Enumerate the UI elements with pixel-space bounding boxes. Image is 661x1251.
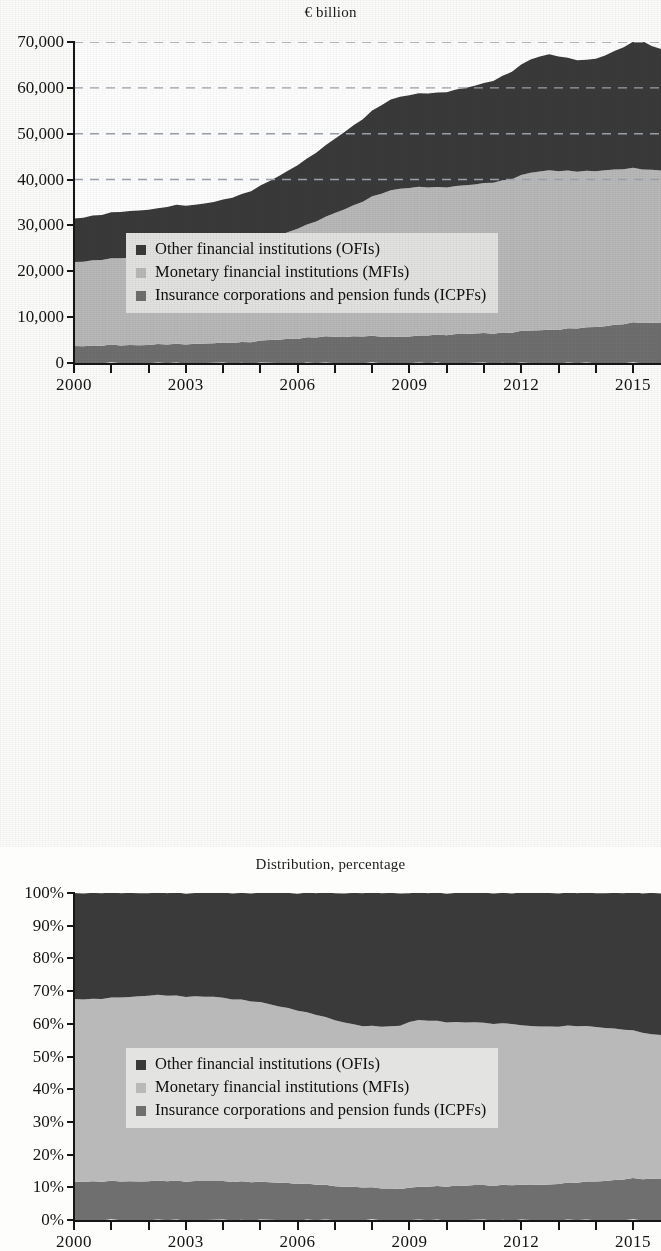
- x-tick-mark: [148, 1221, 150, 1230]
- y-axis-tick-label: 30,000: [0, 216, 64, 233]
- x-axis-tick-label: 2003: [151, 376, 221, 394]
- x-tick-mark: [148, 364, 150, 373]
- y-tick-mark: [67, 1121, 74, 1123]
- y-axis-tick-label: 30%: [0, 1113, 64, 1130]
- y-tick-mark: [67, 316, 74, 318]
- y-axis-tick-label: 0%: [0, 1211, 64, 1228]
- x-axis-tick-label: 2012: [486, 1233, 556, 1251]
- legend-swatch-mfi-icon: [136, 268, 146, 278]
- x-tick-mark: [558, 1221, 560, 1230]
- x-tick-mark: [297, 1221, 299, 1230]
- x-tick-mark: [259, 364, 261, 373]
- x-axis-tick-label: 2006: [263, 376, 333, 394]
- y-axis-tick-label: 10,000: [0, 308, 64, 325]
- x-tick-mark: [446, 364, 448, 373]
- x-axis-line-bottom: [73, 1220, 661, 1222]
- y-axis-tick-label: 20%: [0, 1146, 64, 1163]
- y-tick-mark: [67, 1088, 74, 1090]
- x-tick-mark: [110, 1221, 112, 1230]
- x-tick-mark: [185, 1221, 187, 1230]
- euro-billion-area-svg: [74, 42, 661, 363]
- x-tick-mark: [73, 1221, 75, 1230]
- x-tick-mark: [520, 1221, 522, 1230]
- y-axis-tick-label: 70%: [0, 982, 64, 999]
- x-axis-tick-label: 2015: [598, 376, 661, 394]
- legend-item: Insurance corporations and pension funds…: [136, 284, 486, 307]
- x-tick-mark: [259, 1221, 261, 1230]
- y-axis-tick-label: 80%: [0, 949, 64, 966]
- y-tick-mark: [67, 1023, 74, 1025]
- legend-item: Other financial institutions (OFIs): [136, 238, 486, 261]
- x-tick-mark: [520, 364, 522, 373]
- legend-swatch-mfi-icon: [136, 1083, 146, 1093]
- legend-item-label: Insurance corporations and pension funds…: [155, 1102, 486, 1119]
- x-axis-tick-label: 2000: [39, 1233, 109, 1251]
- x-tick-mark: [334, 1221, 336, 1230]
- x-tick-mark: [632, 364, 634, 373]
- legend-item: Monetary financial institutions (MFIs): [136, 1076, 486, 1099]
- y-axis-tick-label: 40%: [0, 1080, 64, 1097]
- x-tick-mark: [446, 1221, 448, 1230]
- x-axis-tick-label: 2009: [374, 1233, 444, 1251]
- y-tick-mark: [67, 1186, 74, 1188]
- y-tick-mark: [67, 179, 74, 181]
- y-tick-mark: [67, 892, 74, 894]
- x-tick-mark: [371, 364, 373, 373]
- chart-title-distribution-percentage: Distribution, percentage: [0, 856, 661, 873]
- legend-swatch-ofi-icon: [136, 1060, 146, 1070]
- y-axis-tick-label: 60%: [0, 1015, 64, 1032]
- legend-item: Other financial institutions (OFIs): [136, 1053, 486, 1076]
- y-axis-tick-label: 10%: [0, 1178, 64, 1195]
- x-axis-tick-label: 2006: [263, 1233, 333, 1251]
- y-tick-mark: [67, 1154, 74, 1156]
- y-axis-tick-label: 70,000: [0, 33, 64, 50]
- x-axis-tick-label: 2009: [374, 376, 444, 394]
- euro-billion-plot-area: [74, 42, 661, 363]
- y-tick-mark: [67, 41, 74, 43]
- x-tick-mark: [185, 364, 187, 373]
- x-tick-mark: [632, 1221, 634, 1230]
- x-axis-tick-label: 2000: [39, 376, 109, 394]
- y-axis-tick-label: 50,000: [0, 125, 64, 142]
- x-axis-tick-label: 2012: [486, 376, 556, 394]
- y-axis-tick-label: 90%: [0, 917, 64, 934]
- legend-swatch-icpf-icon: [136, 291, 146, 301]
- y-axis-tick-label: 0: [0, 354, 64, 371]
- x-axis-tick-label: 2003: [151, 1233, 221, 1251]
- distribution-percentage-chart-panel: Distribution, percentage 100%90%80%70%60…: [0, 420, 661, 847]
- legend-item-label: Other financial institutions (OFIs): [155, 1056, 380, 1073]
- y-axis-tick-label: 40,000: [0, 171, 64, 188]
- x-tick-mark: [334, 364, 336, 373]
- legend-swatch-icpf-icon: [136, 1106, 146, 1116]
- legend-swatch-ofi-icon: [136, 245, 146, 255]
- x-tick-mark: [483, 364, 485, 373]
- y-tick-mark: [67, 925, 74, 927]
- legend-item-label: Monetary financial institutions (MFIs): [155, 264, 409, 281]
- x-tick-mark: [408, 1221, 410, 1230]
- legend-bottom: Other financial institutions (OFIs)Monet…: [126, 1048, 498, 1128]
- legend-item-label: Monetary financial institutions (MFIs): [155, 1079, 409, 1096]
- y-axis-tick-label: 20,000: [0, 262, 64, 279]
- x-tick-mark: [297, 364, 299, 373]
- y-tick-mark: [67, 87, 74, 89]
- legend-item: Monetary financial institutions (MFIs): [136, 261, 486, 284]
- x-tick-mark: [222, 364, 224, 373]
- y-tick-mark: [67, 1056, 74, 1058]
- x-axis-tick-label: 2015: [598, 1233, 661, 1251]
- legend-item-label: Other financial institutions (OFIs): [155, 241, 380, 258]
- y-axis-tick-label: 50%: [0, 1048, 64, 1065]
- chart-title-euro-billion: € billion: [0, 4, 661, 21]
- euro-billion-chart-panel: € billion 70,00060,00050,00040,00030,000…: [0, 0, 661, 420]
- y-tick-mark: [67, 133, 74, 135]
- x-tick-mark: [595, 364, 597, 373]
- y-tick-mark: [67, 270, 74, 272]
- legend-item: Insurance corporations and pension funds…: [136, 1099, 486, 1122]
- legend-item-label: Insurance corporations and pension funds…: [155, 287, 486, 304]
- y-axis-tick-label: 100%: [0, 884, 64, 901]
- y-tick-mark: [67, 224, 74, 226]
- legend-top: Other financial institutions (OFIs)Monet…: [126, 233, 498, 313]
- x-tick-mark: [408, 364, 410, 373]
- x-tick-mark: [73, 364, 75, 373]
- x-tick-mark: [371, 1221, 373, 1230]
- y-axis-tick-label: 60,000: [0, 79, 64, 96]
